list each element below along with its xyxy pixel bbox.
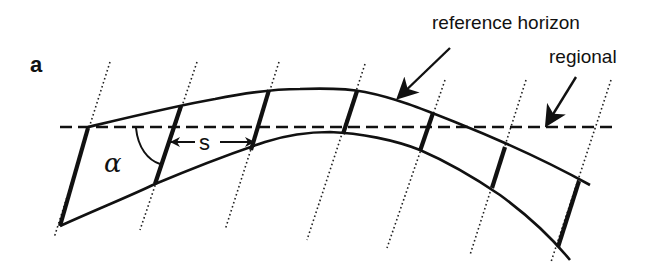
dip-segment-1 xyxy=(60,128,88,226)
reference-horizon-upper xyxy=(88,89,590,185)
dip-segment-7 xyxy=(558,181,579,247)
reference-horizon-lower xyxy=(60,132,570,260)
dip-segments xyxy=(60,90,579,247)
regional-label: regional xyxy=(549,46,617,68)
panel-label: a xyxy=(30,52,42,78)
alpha-angle-label: α xyxy=(104,148,122,178)
reference-horizon-label: reference horizon xyxy=(432,12,580,34)
angle-arc-icon xyxy=(136,128,160,164)
fold-diagram-svg xyxy=(0,0,664,267)
fold-diagram: a reference horizon regional α s xyxy=(0,0,664,267)
axial-trace-5 xyxy=(387,80,445,248)
dip-segment-5 xyxy=(420,113,433,151)
dip-segment-6 xyxy=(492,147,505,188)
regional-pointer-arrow xyxy=(547,77,576,124)
axial-traces xyxy=(54,62,611,262)
spacing-label: s xyxy=(199,130,210,156)
